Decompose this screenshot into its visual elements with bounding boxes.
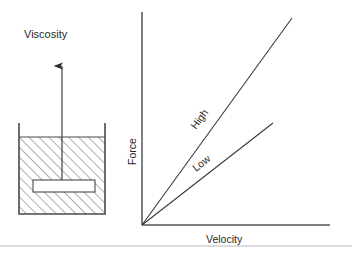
x-axis-title: Velocity (206, 233, 243, 245)
y-axis-title: Force (126, 138, 138, 165)
series-line-low (142, 123, 273, 225)
figure-root: Viscosity High (0, 0, 352, 254)
submerged-plate (33, 180, 95, 192)
series-label-high: High (188, 107, 210, 132)
viscosity-apparatus-group: Viscosity (19, 28, 105, 214)
viscosity-label: Viscosity (24, 28, 68, 40)
force-velocity-chart: High Low Force Velocity (126, 12, 330, 245)
viscosity-figure: Viscosity High (0, 0, 352, 254)
series-label-low: Low (190, 152, 213, 174)
series-line-high (142, 18, 292, 225)
